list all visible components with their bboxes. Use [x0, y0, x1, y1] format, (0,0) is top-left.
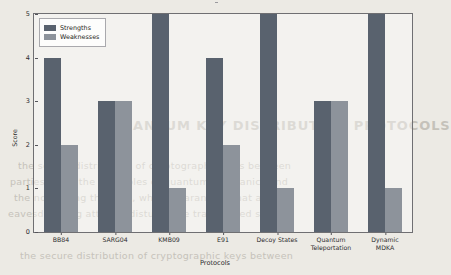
bar-weaknesses-5 — [331, 101, 348, 232]
bar-strengths-0 — [44, 58, 61, 232]
legend-label-weaknesses: Weaknesses — [60, 33, 99, 41]
legend-item-strengths: Strengths — [44, 24, 99, 32]
bar-weaknesses-3 — [223, 145, 240, 232]
y-axis-tick: 2 — [26, 141, 34, 149]
bar-weaknesses-0 — [61, 145, 78, 232]
x-axis-tick-label: Quantum Teleportation — [311, 236, 351, 251]
plot-frame: Strengths Weaknesses 012345BB84SARG04KMB… — [33, 13, 413, 233]
y-axis-tick: 5 — [26, 10, 34, 18]
legend-item-weaknesses: Weaknesses — [44, 33, 99, 41]
bar-strengths-1 — [98, 101, 115, 232]
x-axis-tick-label: BB84 — [53, 236, 69, 244]
bar-strengths-3 — [206, 58, 223, 232]
plot-area — [34, 14, 412, 232]
bar-strengths-2 — [152, 14, 169, 232]
bar-weaknesses-6 — [385, 188, 402, 232]
y-axis-tick: 3 — [26, 97, 34, 105]
bar-weaknesses-2 — [169, 188, 186, 232]
top-tick-mark — [215, 2, 218, 3]
y-axis-tick: 1 — [26, 184, 34, 192]
chart-legend: Strengths Weaknesses — [39, 18, 106, 47]
y-axis-tick: 4 — [26, 54, 34, 62]
x-axis-tick-label: KMB09 — [158, 236, 180, 244]
bar-weaknesses-4 — [277, 188, 294, 232]
y-axis-tick: 0 — [26, 228, 34, 236]
bar-strengths-6 — [368, 14, 385, 232]
legend-label-strengths: Strengths — [60, 24, 91, 32]
bar-strengths-4 — [260, 14, 277, 232]
x-axis-tick-label: Decoy States — [257, 236, 298, 244]
legend-swatch-weaknesses — [44, 34, 56, 40]
bar-weaknesses-1 — [115, 101, 132, 232]
x-axis-tick-label: Dynamic MDKA — [371, 236, 398, 251]
x-axis-label: Protocols — [0, 259, 430, 267]
x-axis-tick-label: E91 — [217, 236, 229, 244]
bar-strengths-5 — [314, 101, 331, 232]
y-axis-label: Score — [11, 129, 18, 147]
legend-swatch-strengths — [44, 25, 56, 31]
x-axis-tick-label: SARG04 — [102, 236, 127, 244]
